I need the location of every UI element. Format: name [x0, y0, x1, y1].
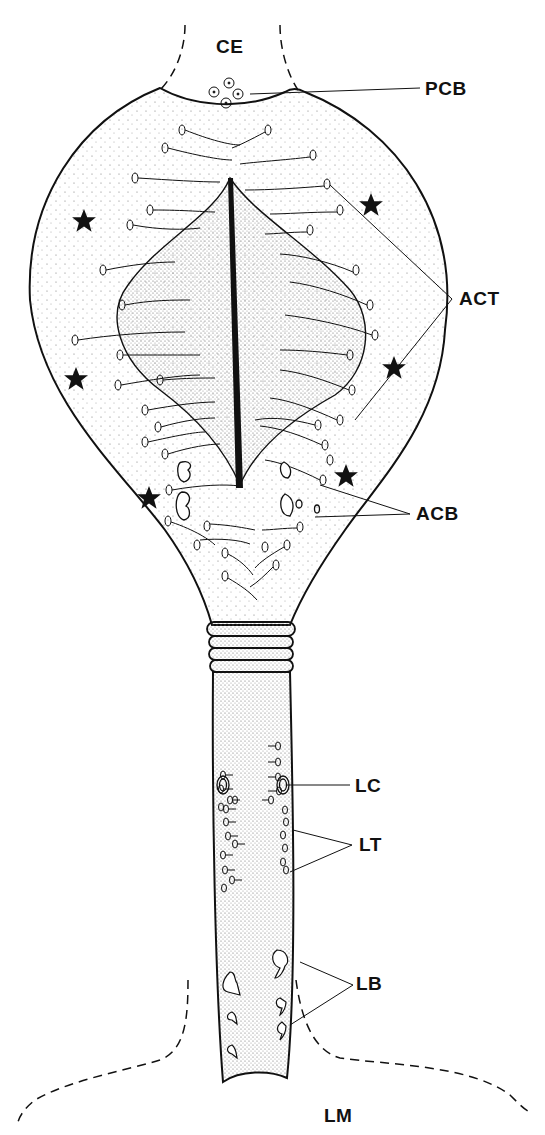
- label-acb: ACB: [416, 503, 459, 525]
- label-act: ACT: [459, 288, 500, 310]
- label-lb: LB: [356, 973, 382, 995]
- label-lt: LT: [359, 834, 382, 856]
- neck-rings: [207, 622, 295, 672]
- label-ce: CE: [216, 36, 243, 58]
- label-lm: LM: [324, 1105, 352, 1127]
- diagram-drawing: [0, 0, 545, 1135]
- label-lc: LC: [355, 775, 381, 797]
- stalk: [213, 672, 294, 1082]
- label-pcb: PCB: [425, 78, 467, 100]
